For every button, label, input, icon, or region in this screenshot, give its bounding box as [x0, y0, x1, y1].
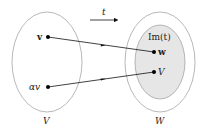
map-label: t	[102, 7, 106, 17]
mapping-arrowhead-icon	[101, 79, 106, 81]
domain-set-label: V	[43, 116, 51, 126]
point-label-alpha-v: αv	[29, 82, 40, 92]
linear-map-diagram: t v αv w V Im(t) V W	[0, 0, 208, 135]
point-v	[46, 35, 50, 39]
point-label-v: v	[36, 32, 43, 42]
image-set-label: Im(t)	[148, 32, 171, 42]
point-label-w: w	[157, 47, 166, 57]
codomain-set-label: W	[155, 116, 165, 126]
domain-set-ellipse	[12, 12, 82, 112]
point-alpha-v	[46, 85, 50, 89]
point-V	[152, 70, 156, 74]
point-w	[152, 50, 156, 54]
